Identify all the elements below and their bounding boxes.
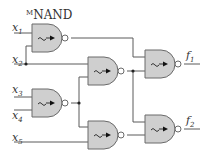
junction-node-g3 bbox=[77, 101, 80, 104]
input-label-x1: x1 bbox=[12, 21, 23, 36]
junction-node-g2 bbox=[131, 69, 134, 72]
input-label-x3: x3 bbox=[12, 83, 23, 98]
gate-type-label: MNAND bbox=[26, 8, 72, 22]
nand-gate-g1 bbox=[32, 24, 68, 52]
input-label-x2: x2 bbox=[12, 53, 23, 68]
nand-gate-g6 bbox=[145, 115, 181, 143]
nand-gate-g3 bbox=[32, 89, 68, 117]
output-label-f1: f1 bbox=[185, 49, 195, 64]
input-label-x4: x4 bbox=[12, 109, 23, 124]
junction-node-x2 bbox=[24, 62, 27, 65]
nand-circuit-diagram: MNAND x1 x2 x3 x4 x5 f1 f2 bbox=[0, 0, 208, 158]
nand-gate-g4 bbox=[88, 121, 124, 149]
output-label-f2: f2 bbox=[185, 114, 195, 129]
nand-gate-g5 bbox=[145, 50, 181, 78]
nand-gate-g2 bbox=[88, 57, 124, 85]
input-label-x5: x5 bbox=[12, 131, 23, 146]
